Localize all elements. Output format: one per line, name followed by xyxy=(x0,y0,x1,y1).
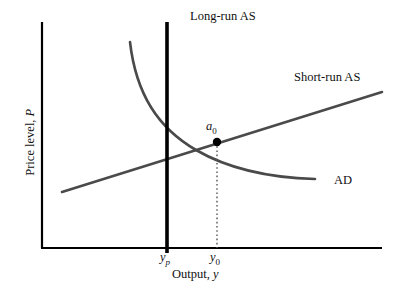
short-run-as-label: Short-run AS xyxy=(294,71,360,84)
ad-label: AD xyxy=(334,174,352,187)
ad-curve xyxy=(130,42,315,179)
equilibrium-point-subscript: 0 xyxy=(212,126,217,136)
equilibrium-point-dot xyxy=(213,138,221,146)
y-axis-title-symbol: P xyxy=(23,109,37,117)
x-axis-title-symbol: y xyxy=(213,267,219,281)
x-axis-title: Output, y xyxy=(172,268,219,281)
equilibrium-point-label: a0 xyxy=(206,120,217,136)
y-axis-title: Price level, P xyxy=(24,92,37,192)
y-axis-title-text: Price level, xyxy=(23,116,37,175)
x-tick-subscript: 0 xyxy=(216,257,221,267)
macro-as-ad-diagram xyxy=(0,0,398,296)
x-tick-label-yp: yp xyxy=(160,251,170,267)
x-axis-title-text: Output, xyxy=(172,267,213,281)
long-run-as-label: Long-run AS xyxy=(190,10,256,23)
x-tick-subscript: p xyxy=(166,257,171,267)
x-tick-label-y0: y0 xyxy=(210,251,220,267)
